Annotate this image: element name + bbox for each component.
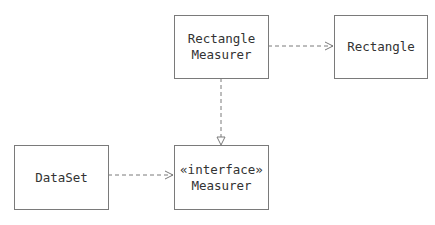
stereotype-label: «interface» <box>180 162 263 178</box>
class-dataset[interactable]: DataSet <box>14 145 109 210</box>
interface-measurer[interactable]: «interface» Measurer <box>174 145 269 210</box>
class-name: Rectangle <box>347 39 415 55</box>
class-name-line: Measurer <box>191 47 251 63</box>
class-rectangle-measurer[interactable]: Rectangle Measurer <box>174 15 269 79</box>
hollow-triangle-arrowhead-icon <box>217 137 225 145</box>
interface-name: Measurer <box>191 178 251 194</box>
class-name-line: Rectangle <box>188 31 256 47</box>
class-rectangle[interactable]: Rectangle <box>334 15 428 79</box>
class-name: DataSet <box>35 170 88 186</box>
